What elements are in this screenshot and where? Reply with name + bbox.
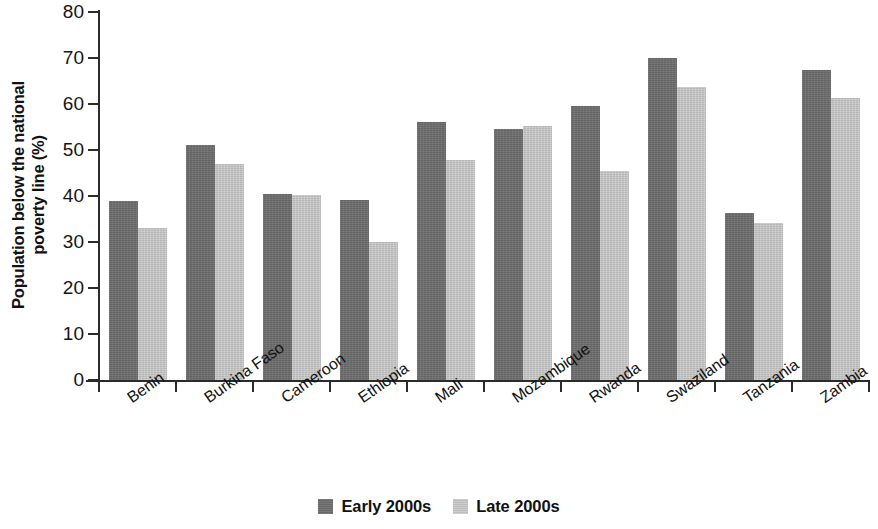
x-tick-mark	[329, 381, 331, 392]
legend-label: Late 2000s	[476, 497, 559, 516]
bar-late-2000s	[446, 160, 475, 380]
x-tick-mark	[714, 381, 716, 392]
bar-group	[802, 12, 860, 380]
x-tick-mark	[637, 381, 639, 392]
bar-early-2000s	[571, 106, 600, 380]
x-tick-mark	[868, 381, 870, 392]
y-tick-label: 80	[44, 2, 84, 21]
bar-late-2000s	[292, 195, 321, 380]
bar-late-2000s	[754, 223, 783, 380]
bar-group	[109, 12, 167, 380]
y-tick-mark	[88, 195, 99, 197]
bar-late-2000s	[600, 171, 629, 380]
bar-early-2000s	[109, 201, 138, 380]
x-tick-mark	[483, 381, 485, 392]
y-tick-mark	[88, 287, 99, 289]
bar-late-2000s	[677, 87, 706, 380]
x-tick-mark	[252, 381, 254, 392]
bar-late-2000s	[138, 228, 167, 380]
bar-group	[186, 12, 244, 380]
poverty-bar-chart: Population below the national poverty li…	[0, 0, 878, 529]
bar-early-2000s	[494, 129, 523, 380]
legend-item: Late 2000s	[453, 497, 559, 516]
bar-early-2000s	[417, 122, 446, 380]
y-tick-label: 70	[44, 48, 84, 67]
y-tick-mark	[88, 333, 99, 335]
legend-label: Early 2000s	[341, 497, 431, 516]
legend-swatch-early-icon	[318, 499, 333, 514]
bar-group	[494, 12, 552, 380]
y-tick-label: 10	[44, 324, 84, 343]
y-tick-mark	[88, 241, 99, 243]
bar-group	[725, 12, 783, 380]
bar-group	[571, 12, 629, 380]
bar-late-2000s	[369, 242, 398, 380]
x-tick-mark	[98, 381, 100, 392]
y-tick-label: 30	[44, 232, 84, 251]
plot-area	[99, 12, 869, 380]
x-tick-mark	[560, 381, 562, 392]
bar-group	[263, 12, 321, 380]
bar-late-2000s	[831, 98, 860, 380]
y-tick-label: 40	[44, 186, 84, 205]
bar-early-2000s	[725, 213, 754, 380]
bar-late-2000s	[523, 126, 552, 380]
bar-early-2000s	[648, 58, 677, 380]
y-axis-title-line1: Population below the national	[9, 81, 27, 309]
x-tick-mark	[406, 381, 408, 392]
bar-group	[417, 12, 475, 380]
bar-early-2000s	[802, 70, 831, 380]
chart-legend: Early 2000sLate 2000s	[0, 497, 878, 516]
x-tick-mark	[175, 381, 177, 392]
bar-group	[340, 12, 398, 380]
y-tick-label: 0	[44, 370, 84, 389]
legend-item: Early 2000s	[318, 497, 431, 516]
y-tick-mark	[88, 57, 99, 59]
y-tick-label: 20	[44, 278, 84, 297]
y-tick-mark	[88, 103, 99, 105]
legend-swatch-late-icon	[453, 499, 468, 514]
y-tick-label: 50	[44, 140, 84, 159]
bar-group	[648, 12, 706, 380]
y-tick-mark	[88, 11, 99, 13]
bar-early-2000s	[340, 200, 369, 380]
y-tick-mark	[88, 149, 99, 151]
bar-late-2000s	[215, 164, 244, 380]
x-tick-mark	[791, 381, 793, 392]
bar-early-2000s	[186, 145, 215, 380]
y-tick-label: 60	[44, 94, 84, 113]
